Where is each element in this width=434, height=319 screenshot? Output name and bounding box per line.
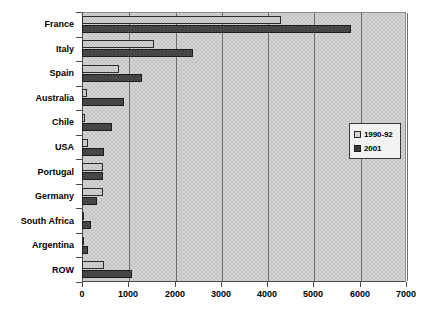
y-axis-label: ROW <box>0 265 74 275</box>
x-axis-label: 7000 <box>383 289 429 299</box>
y-axis-label: Germany <box>0 191 74 201</box>
legend-item: 2001 <box>354 142 396 154</box>
bar-series2 <box>82 98 124 106</box>
x-axis-tick <box>175 282 176 287</box>
x-axis-label: 4000 <box>244 289 290 299</box>
chart-legend: 1990-922001 <box>349 123 401 159</box>
y-axis-label: Chile <box>0 117 74 127</box>
gridline <box>407 13 408 281</box>
x-axis-tick <box>221 282 222 287</box>
bar-series1 <box>82 163 103 171</box>
bar-series2 <box>82 123 112 131</box>
bar-series2 <box>82 74 142 82</box>
y-axis-label: USA <box>0 142 74 152</box>
x-axis-tick <box>267 282 268 287</box>
x-axis-tick <box>128 282 129 287</box>
x-axis-label: 0 <box>59 289 105 299</box>
y-axis-label: Italy <box>0 44 74 54</box>
gridline <box>222 13 223 281</box>
y-axis-label: Australia <box>0 93 74 103</box>
bar-series1 <box>82 40 154 48</box>
y-axis-tick <box>76 110 82 111</box>
y-axis-tick <box>76 257 82 258</box>
x-axis-label: 3000 <box>198 289 244 299</box>
bar-series1 <box>82 16 281 24</box>
x-axis-tick <box>313 282 314 287</box>
y-axis-tick <box>76 208 82 209</box>
x-axis-label: 5000 <box>290 289 336 299</box>
gridline <box>314 13 315 281</box>
y-axis-label: Spain <box>0 68 74 78</box>
bar-series2 <box>82 49 193 57</box>
bar-series2 <box>82 148 104 156</box>
legend-label: 1990-92 <box>364 130 393 139</box>
legend-label: 2001 <box>364 144 381 153</box>
bar-chart: FranceItalySpainAustraliaChileUSAPortuga… <box>0 0 434 319</box>
bar-series1 <box>82 114 85 122</box>
y-axis-tick <box>76 159 82 160</box>
x-axis-label: 2000 <box>152 289 198 299</box>
x-axis-tick <box>406 282 407 287</box>
bar-series2 <box>82 197 97 205</box>
bar-series1 <box>82 237 84 245</box>
legend-swatch-icon <box>354 131 361 138</box>
x-axis-tick <box>360 282 361 287</box>
bar-series1 <box>82 89 87 97</box>
bar-series1 <box>82 65 119 73</box>
legend-swatch-icon <box>354 145 361 152</box>
y-axis-tick <box>76 135 82 136</box>
x-axis-label: 1000 <box>105 289 151 299</box>
y-axis-label: France <box>0 19 74 29</box>
bar-series2 <box>82 246 88 254</box>
bar-series2 <box>82 270 132 278</box>
bar-series1 <box>82 261 104 269</box>
bar-series1 <box>82 212 84 220</box>
y-axis-label: Argentina <box>0 240 74 250</box>
bar-series2 <box>82 221 91 229</box>
bar-series2 <box>82 25 351 33</box>
y-axis-tick <box>76 184 82 185</box>
y-axis-tick <box>76 61 82 62</box>
legend-item: 1990-92 <box>354 128 396 140</box>
bar-series1 <box>82 188 103 196</box>
bar-series1 <box>82 139 88 147</box>
y-axis-tick <box>76 37 82 38</box>
x-axis-tick <box>82 282 83 287</box>
y-axis-tick <box>76 86 82 87</box>
y-axis-label: Portugal <box>0 167 74 177</box>
gridline <box>268 13 269 281</box>
bar-series2 <box>82 172 103 180</box>
x-axis-label: 6000 <box>337 289 383 299</box>
y-axis-tick <box>76 233 82 234</box>
y-axis-tick <box>76 12 82 13</box>
y-axis-label: South Africa <box>0 216 74 226</box>
